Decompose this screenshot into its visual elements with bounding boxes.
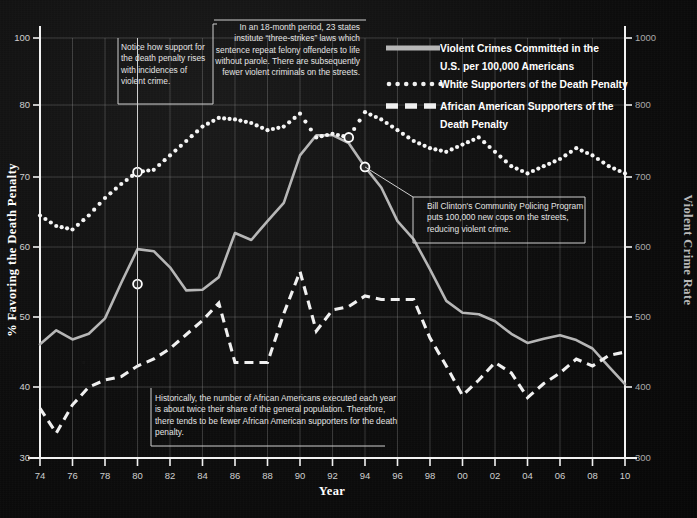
x-axis-tick-label: 82: [165, 470, 176, 481]
data-point-marker[interactable]: [344, 133, 353, 142]
x-axis-tick-label: 06: [555, 470, 566, 481]
y-axis-right-tick-label: 400: [635, 381, 651, 392]
y-axis-left-tick-label: 60: [19, 241, 30, 252]
callout-leader-community-policing: [365, 167, 413, 197]
x-axis-title: Year: [319, 484, 346, 498]
y-axis-left-tick-label: 100: [14, 32, 30, 43]
chart-legend: Violent Crimes Committed in theU.S. per …: [386, 43, 628, 130]
y-axis-left-tick-label: 70: [19, 171, 30, 182]
legend-swatch-dotted: [430, 82, 435, 87]
x-axis-tick-label: 92: [327, 470, 338, 481]
x-axis-tick-label: 88: [262, 470, 273, 481]
x-axis-tick-label: 74: [35, 470, 46, 481]
x-axis-tick-label: 02: [490, 470, 501, 481]
x-axis-tick-label: 78: [100, 470, 111, 481]
legend-label: African American Supporters of the: [440, 101, 614, 112]
x-axis-tick-label: 86: [230, 470, 241, 481]
y-axis-right-tick-label: 1000: [635, 32, 656, 43]
y-axis-right-tick-label: 800: [635, 99, 651, 110]
legend-swatch-dotted: [421, 82, 426, 87]
x-axis-tick-label: 08: [587, 470, 598, 481]
x-axis-tick-label: 98: [425, 470, 436, 481]
legend-label: U.S. per 100,000 Americans: [440, 61, 574, 72]
y-axis-right-title: Violent Crime Rate: [681, 195, 695, 306]
x-axis-tick-label: 76: [67, 470, 78, 481]
legend-label: White Supporters of the Death Penalty: [440, 79, 628, 90]
y-axis-left-title: % Favoring the Death Penalty: [5, 163, 19, 337]
legend-swatch-dotted: [413, 82, 418, 87]
y-axis-left-tick-label: 80: [19, 99, 30, 110]
legend-swatch-dotted: [404, 82, 409, 87]
y-axis-left-tick-label: 40: [19, 381, 30, 392]
legend-swatch-dotted: [395, 82, 400, 87]
x-axis-tick-label: 10: [620, 470, 631, 481]
y-axis-left-tick-label: 50: [19, 311, 30, 322]
x-axis-tick-label: 04: [522, 470, 533, 481]
legend-label: Death Penalty: [440, 119, 508, 130]
x-axis-tick-label: 96: [392, 470, 403, 481]
x-axis-tick-label: 80: [132, 470, 143, 481]
annotation-community-policing: Bill Clinton's Community Policing Progra…: [427, 201, 585, 235]
y-axis-right-tick-label: 700: [635, 171, 651, 182]
annotation-african-american-executions: Historically, the number of African Amer…: [155, 393, 403, 438]
x-axis-tick-label: 00: [457, 470, 468, 481]
x-axis-tick-label: 84: [197, 470, 208, 481]
legend-label: Violent Crimes Committed in the: [440, 43, 599, 54]
y-axis-right-tick-label: 300: [635, 452, 651, 463]
annotation-three-strikes: In an 18-month period, 23 states institu…: [214, 22, 360, 78]
y-axis-right-tick-label: 500: [635, 311, 651, 322]
x-axis-tick-label: 94: [360, 470, 371, 481]
annotation-support-rises: Notice how support for the death penalty…: [121, 42, 213, 87]
chart-canvas: 1008070605040301000800700600500400300747…: [0, 0, 697, 518]
y-axis-left-tick-label: 30: [19, 452, 30, 463]
y-axis-right-tick-label: 600: [635, 241, 651, 252]
x-axis-tick-label: 90: [295, 470, 306, 481]
legend-swatch-dotted: [387, 82, 392, 87]
